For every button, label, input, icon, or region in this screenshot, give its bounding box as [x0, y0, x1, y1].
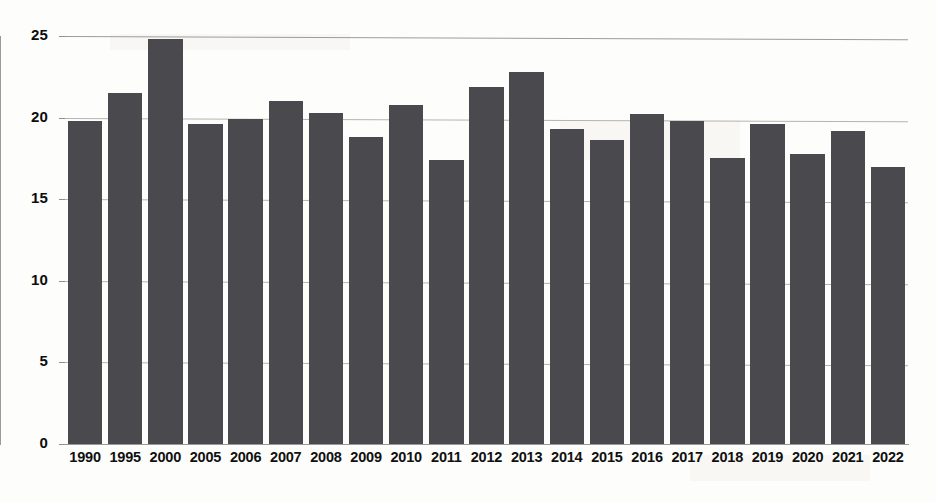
bar-2017[interactable] — [670, 121, 704, 444]
x-axis-tick-label: 2020 — [788, 449, 828, 465]
bar-2008[interactable] — [309, 113, 343, 444]
y-axis-tick-label: 15 — [0, 189, 48, 206]
x-axis-tick-label: 2018 — [707, 449, 747, 465]
x-axis-tick-label: 2011 — [426, 449, 466, 465]
x-axis-tick-label: 1995 — [105, 449, 145, 465]
y-tick-mark-0 — [59, 444, 65, 445]
x-axis-tick-label: 2017 — [667, 449, 707, 465]
x-axis-tick-label: 2010 — [386, 449, 426, 465]
y-tick-mark-15 — [59, 199, 65, 200]
x-axis-tick-label: 2015 — [587, 449, 627, 465]
x-axis-tick-label: 2006 — [226, 449, 266, 465]
y-axis-tick-label: 0 — [0, 434, 48, 451]
x-axis-tick-label: 2016 — [627, 449, 667, 465]
x-axis-tick-label: 2012 — [466, 449, 506, 465]
x-axis-tick-label: 2000 — [145, 449, 185, 465]
bar-2010[interactable] — [389, 105, 423, 444]
y-axis-tick-label: 10 — [0, 271, 48, 288]
y-tick-mark-5 — [59, 362, 65, 363]
x-axis-tick-label: 2019 — [747, 449, 787, 465]
x-axis-tick-label: 2005 — [185, 449, 225, 465]
bar-2018[interactable] — [710, 158, 744, 444]
x-axis-tick-label: 2014 — [547, 449, 587, 465]
bar-2022[interactable] — [871, 167, 905, 444]
x-axis-tick-label: 2022 — [868, 449, 908, 465]
x-axis-line — [64, 444, 909, 445]
bar-2012[interactable] — [469, 87, 503, 444]
x-axis-tick-label: 2007 — [266, 449, 306, 465]
bar-chart-figure: 0510152025 19901995200020052006200720082… — [0, 0, 936, 502]
x-axis-tick-label: 2013 — [507, 449, 547, 465]
bar-2016[interactable] — [630, 114, 664, 444]
bar-2021[interactable] — [831, 131, 865, 444]
x-axis-tick-label: 2009 — [346, 449, 386, 465]
bar-2019[interactable] — [750, 124, 784, 444]
bar-2009[interactable] — [349, 137, 383, 444]
y-axis-tick-label: 20 — [0, 108, 48, 125]
bar-2005[interactable] — [188, 124, 222, 444]
gridline-25 — [65, 36, 908, 40]
bar-2011[interactable] — [429, 160, 463, 444]
y-axis-tick-label: 5 — [0, 352, 48, 369]
plot-area — [65, 36, 908, 444]
y-axis-tick-label: 25 — [0, 26, 48, 43]
bar-2006[interactable] — [228, 119, 262, 444]
bar-2013[interactable] — [509, 72, 543, 444]
bar-2007[interactable] — [269, 101, 303, 444]
x-axis-tick-label: 2008 — [306, 449, 346, 465]
x-axis-tick-label: 2021 — [828, 449, 868, 465]
y-axis-labels: 0510152025 — [0, 0, 52, 502]
bar-2015[interactable] — [590, 140, 624, 444]
y-tick-mark-10 — [59, 281, 65, 282]
bar-1995[interactable] — [108, 93, 142, 444]
bar-2000[interactable] — [148, 39, 182, 444]
y-tick-mark-20 — [59, 118, 65, 119]
bar-1990[interactable] — [68, 121, 102, 444]
bar-2020[interactable] — [790, 154, 824, 444]
x-axis-tick-label: 1990 — [65, 449, 105, 465]
bar-2014[interactable] — [550, 129, 584, 444]
x-axis-labels: 1990199520002005200620072008200920102011… — [65, 449, 908, 475]
y-axis-line — [0, 36, 1, 445]
y-tick-mark-25 — [59, 36, 65, 37]
